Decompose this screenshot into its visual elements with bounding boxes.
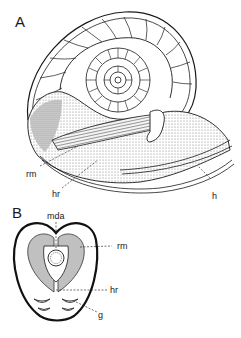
label-rm-b: rm [117, 241, 128, 251]
panel-label-b: B [12, 204, 22, 221]
label-h-a: h [212, 191, 217, 201]
label-mda: mda [47, 211, 65, 221]
nautilus-figure: A rm hr h B m [0, 0, 241, 338]
shell-spiral [86, 48, 150, 112]
label-hr-b: hr [110, 285, 118, 295]
panel-label-a: A [15, 13, 25, 30]
panel-a: A rm hr h [15, 12, 234, 201]
label-rm-a: rm [26, 169, 37, 179]
label-hr-a: hr [52, 189, 60, 199]
panel-b: B mda rm hr g [12, 204, 128, 321]
label-g: g [98, 310, 103, 320]
